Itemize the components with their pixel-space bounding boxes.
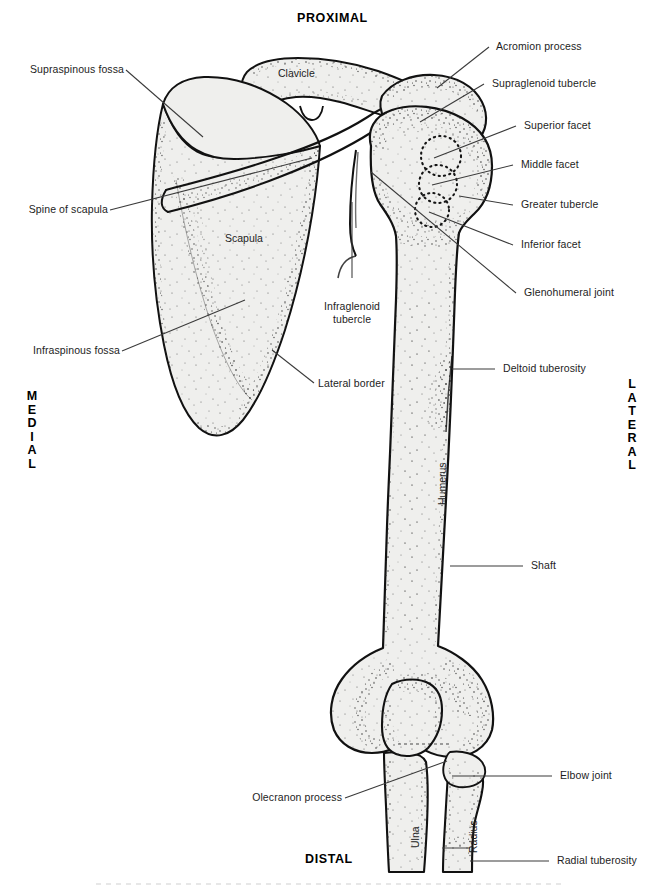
callout-spine-of-scapula: Spine of scapula <box>0 203 108 216</box>
medial-letter-d: D <box>24 417 40 431</box>
orientation-label-medial: M E D I A L <box>24 390 40 471</box>
anatomy-figure: PROXIMAL DISTAL M E D I A L L A T E R A … <box>0 0 654 893</box>
callout-radial-tuberosity: Radial tuberosity <box>557 854 637 867</box>
callout-infraglenoid-tubercle-line1: Infraglenoid <box>324 300 380 312</box>
bone-label-clavicle: Clavicle <box>278 67 315 79</box>
orientation-label-lateral: L A T E R A L <box>624 378 640 473</box>
callout-shaft: Shaft <box>531 559 556 572</box>
callout-superior-facet: Superior facet <box>524 119 591 132</box>
callout-olecranon-process: Olecranon process <box>226 791 342 804</box>
medial-letter-i: I <box>24 431 40 445</box>
callout-lateral-border: Lateral border <box>318 377 385 390</box>
bone-label-humerus: Humerus <box>436 462 448 505</box>
bone-label-ulna: Ulna <box>409 826 421 848</box>
callout-infraglenoid-tubercle-line2: tubercle <box>333 313 371 325</box>
callout-supraglenoid-tubercle: Supraglenoid tubercle <box>492 77 596 90</box>
lateral-letter-r: R <box>624 432 640 446</box>
leader-lateral-border <box>272 350 314 383</box>
radius-bone <box>438 751 490 878</box>
humerus-bone <box>326 100 502 764</box>
lateral-letter-a: A <box>624 392 640 406</box>
lateral-letter-l: L <box>624 378 640 392</box>
medial-letter-l: L <box>24 458 40 472</box>
callout-greater-tubercle: Greater tubercle <box>521 198 598 211</box>
medial-letter-a: A <box>24 444 40 458</box>
callout-acromion-process: Acromion process <box>496 40 582 53</box>
callout-inferior-facet: Inferior facet <box>521 238 581 251</box>
lateral-letter-t: T <box>624 405 640 419</box>
lateral-letter-a2: A <box>624 446 640 460</box>
medial-letter-m: M <box>24 390 40 404</box>
medial-letter-e: E <box>24 404 40 418</box>
callout-middle-facet: Middle facet <box>521 158 579 171</box>
callout-infraglenoid-tubercle: Infraglenoid tubercle <box>310 300 394 325</box>
callout-glenohumeral-joint: Glenohumeral joint <box>524 286 614 299</box>
orientation-label-proximal: PROXIMAL <box>297 11 368 25</box>
callout-elbow-joint: Elbow joint <box>560 769 612 782</box>
orientation-label-distal: DISTAL <box>305 852 353 866</box>
lateral-letter-e: E <box>624 419 640 433</box>
callout-supraspinous-fossa: Supraspinous fossa <box>0 63 124 76</box>
lateral-letter-l2: L <box>624 459 640 473</box>
bone-illustration <box>0 0 654 893</box>
callout-infraspinous-fossa: Infraspinous fossa <box>0 344 120 357</box>
bone-label-radius: Radius <box>467 820 479 853</box>
bone-label-scapula: Scapula <box>225 232 263 244</box>
callout-deltoid-tuberosity: Deltoid tuberosity <box>503 362 586 375</box>
